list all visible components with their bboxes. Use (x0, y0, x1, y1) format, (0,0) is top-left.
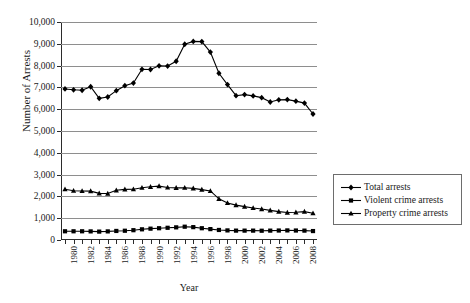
data-point-diamond (191, 39, 196, 45)
x-tick-mark (296, 240, 297, 244)
data-point-square (200, 226, 204, 230)
y-tick-label: 4,000 (34, 148, 55, 158)
data-point-diamond (259, 95, 264, 101)
x-tick-mark (253, 240, 254, 244)
series-total-arrests (62, 39, 315, 117)
y-tick-label: 0 (50, 235, 55, 245)
data-point-diamond (242, 92, 247, 98)
data-point-diamond (174, 58, 179, 64)
x-tick-mark (168, 240, 169, 244)
series-property-crime-arrests (62, 183, 315, 215)
x-tick-mark (313, 240, 314, 244)
x-tick-label: 1986 (120, 246, 130, 264)
data-point-square (191, 225, 195, 229)
x-tick-mark (65, 240, 66, 244)
x-tick-mark (219, 240, 220, 244)
x-tick-mark (74, 240, 75, 244)
data-point-square (148, 227, 152, 231)
data-point-diamond (62, 86, 67, 92)
data-point-diamond (114, 88, 119, 94)
data-point-diamond (148, 67, 153, 73)
y-tick-label: 8,000 (34, 61, 55, 71)
data-point-diamond (251, 93, 256, 99)
x-tick-label: 1996 (206, 246, 216, 264)
data-point-square (294, 228, 298, 232)
x-tick-label: 1980 (69, 246, 79, 264)
data-point-diamond (348, 185, 353, 191)
y-tick-label: 10,000 (29, 17, 55, 27)
x-tick-mark (159, 240, 160, 244)
data-point-square (157, 226, 161, 230)
x-tick-mark (133, 240, 134, 244)
data-point-square (131, 228, 135, 232)
legend-item[interactable]: Property crime arrests (340, 206, 456, 219)
legend-marker-diamond-icon (340, 180, 362, 193)
data-point-square (166, 226, 170, 230)
x-tick-mark (245, 240, 246, 244)
x-tick-label: 1998 (223, 246, 233, 264)
x-tick-mark (116, 240, 117, 244)
legend-marker-triangle-icon (340, 206, 362, 219)
x-tick-label: 1994 (189, 246, 199, 264)
data-point-square (234, 229, 238, 233)
y-tick-label: 2,000 (34, 191, 55, 201)
data-point-square (123, 229, 127, 233)
x-tick-mark (287, 240, 288, 244)
x-tick-label: 2006 (291, 246, 301, 264)
x-tick-mark (108, 240, 109, 244)
x-tick-mark (185, 240, 186, 244)
y-tick-label: 6,000 (34, 104, 55, 114)
x-tick-mark (262, 240, 263, 244)
data-point-square (285, 228, 289, 232)
data-point-square (80, 229, 84, 233)
y-tick-label: 1,000 (34, 213, 55, 223)
data-point-square (89, 229, 93, 233)
x-tick-label: 2004 (274, 246, 284, 264)
x-tick-mark (210, 240, 211, 244)
x-tick-mark (193, 240, 194, 244)
x-tick-label: 2002 (257, 246, 267, 264)
series-layer (61, 22, 317, 240)
data-point-square (97, 230, 101, 234)
x-tick-mark (304, 240, 305, 244)
data-point-square (183, 225, 187, 229)
data-point-square (251, 229, 255, 233)
data-point-diamond (276, 97, 281, 103)
data-point-diamond (105, 94, 110, 100)
data-point-diamond (156, 63, 161, 69)
y-tick-label: 3,000 (34, 170, 55, 180)
data-point-diamond (71, 87, 76, 93)
x-tick-mark (151, 240, 152, 244)
data-point-square (71, 229, 75, 233)
x-tick-mark (176, 240, 177, 244)
data-point-square (225, 228, 229, 232)
legend-item[interactable]: Total arrests (340, 180, 456, 193)
x-tick-label: 1984 (103, 246, 113, 264)
y-axis-title: Number of Arrests (20, 11, 32, 171)
x-tick-mark (202, 240, 203, 244)
x-tick-mark (91, 240, 92, 244)
data-point-square (260, 229, 264, 233)
data-point-square (114, 229, 118, 233)
x-tick-label: 1992 (172, 246, 182, 264)
data-point-square (174, 225, 178, 229)
x-tick-mark (227, 240, 228, 244)
legend-label: Violent crime arrests (362, 195, 443, 205)
data-point-diamond (182, 41, 187, 47)
data-point-diamond (285, 97, 290, 103)
data-point-triangle (62, 186, 67, 191)
series-line (65, 227, 313, 232)
x-tick-mark (99, 240, 100, 244)
x-tick-mark (236, 240, 237, 244)
y-tick-mark (57, 240, 61, 241)
y-tick-label: 7,000 (34, 82, 55, 92)
legend-item[interactable]: Violent crime arrests (340, 193, 456, 206)
data-point-diamond (165, 63, 170, 69)
x-tick-mark (142, 240, 143, 244)
x-axis-title: Year (61, 282, 317, 293)
y-tick-label: 9,000 (34, 39, 55, 49)
data-point-square (349, 198, 353, 202)
series-line (65, 41, 313, 114)
data-point-diamond (268, 99, 273, 105)
x-tick-label: 1988 (137, 246, 147, 264)
